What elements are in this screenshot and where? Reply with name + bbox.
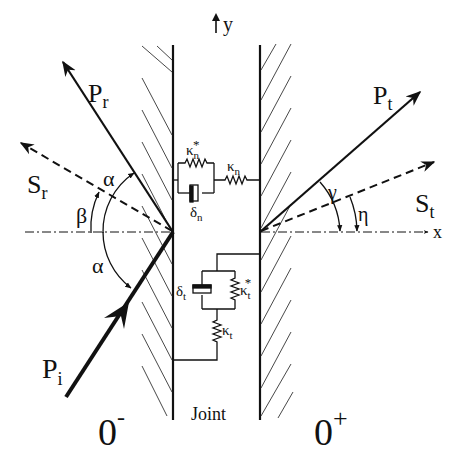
kappa-n-star-label: κn* [186,137,200,161]
angle-eta: η [358,203,368,226]
svg-text:St: St [415,189,434,222]
transmitted-p-wave: Pt [260,81,420,232]
y-axis-label-group: y [212,13,233,36]
angle-alpha-top: α [103,166,115,191]
svg-text:Pt: Pt [373,81,392,114]
joint-label: Joint [191,404,226,424]
x-axis: x [25,222,442,242]
x-axis-label: x [433,222,442,242]
normal-spring-dashpot [173,159,260,202]
angle-arcs-right [320,182,357,231]
svg-text:Pi: Pi [42,353,63,389]
angle-gamma: γ [327,181,337,204]
svg-text:Sr: Sr [27,170,47,203]
svg-text:Pr: Pr [88,79,108,112]
arrow-up-icon [212,13,220,21]
arrow-icon [104,302,129,329]
kappa-n-label: κn [227,158,241,177]
tangential-spring-dashpot [173,254,260,360]
kappa-t-label: κt [222,322,233,341]
angle-alpha-bottom: α [92,253,104,278]
y-axis-label: y [223,13,233,36]
delta-t-label: δt [176,283,186,302]
angle-beta: β [76,203,87,228]
right-side-label: 0+ [314,404,348,453]
transmitted-s-wave: St [261,162,434,231]
kappa-t-star-label: κt* [240,275,251,301]
delta-n-label: δn [190,204,203,223]
joint-wave-diagram: x y Pr Sr Pi Pt St α β α [0,0,462,461]
left-side-label: 0- [98,404,125,453]
